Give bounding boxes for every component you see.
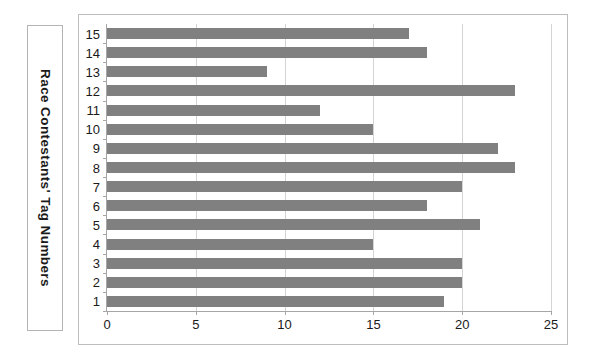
y-axis-tick	[103, 62, 107, 63]
y-axis-tick	[103, 311, 107, 312]
y-axis-label: 8	[93, 160, 100, 175]
y-axis-label: 3	[93, 256, 100, 271]
x-axis-label: 0	[103, 317, 110, 332]
y-axis-tick	[103, 273, 107, 274]
y-axis-tick	[103, 139, 107, 140]
y-axis-tick	[103, 254, 107, 255]
y-axis-tick	[103, 292, 107, 293]
chart-plot-frame: 0510152025123456789101112131415	[78, 14, 568, 345]
y-axis-title-box: Race Contestants' Tag Numbers	[27, 25, 63, 331]
y-axis-label: 5	[93, 217, 100, 232]
x-axis-label: 15	[366, 317, 380, 332]
y-axis-tick	[103, 120, 107, 121]
y-axis-label: 10	[86, 122, 100, 137]
bar	[107, 124, 373, 135]
y-axis-label: 4	[93, 237, 100, 252]
y-axis-title: Race Contestants' Tag Numbers	[38, 69, 53, 287]
bar	[107, 143, 498, 154]
bar	[107, 105, 320, 116]
bar	[107, 85, 515, 96]
y-axis-tick	[103, 101, 107, 102]
bar	[107, 28, 409, 39]
bar	[107, 219, 480, 230]
y-axis-label: 6	[93, 198, 100, 213]
y-axis-label: 7	[93, 179, 100, 194]
y-axis-tick	[103, 81, 107, 82]
bar	[107, 181, 462, 192]
y-axis-label: 9	[93, 141, 100, 156]
bar	[107, 258, 462, 269]
x-axis-tick	[462, 311, 463, 315]
x-axis-label: 25	[544, 317, 558, 332]
bar	[107, 47, 427, 58]
y-axis-label: 1	[93, 294, 100, 309]
bar	[107, 277, 462, 288]
y-axis-tick	[103, 196, 107, 197]
x-gridline	[551, 24, 552, 311]
y-axis-label: 15	[86, 26, 100, 41]
bar	[107, 66, 267, 77]
bar	[107, 162, 515, 173]
x-axis-tick	[107, 311, 108, 315]
y-axis-label: 2	[93, 275, 100, 290]
x-axis-tick	[285, 311, 286, 315]
y-axis-tick	[103, 215, 107, 216]
y-axis-tick	[103, 158, 107, 159]
chart-figure: Race Contestants' Tag Numbers 0510152025…	[0, 0, 598, 356]
y-axis-label: 11	[87, 103, 101, 118]
x-axis-tick	[196, 311, 197, 315]
x-axis-tick	[373, 311, 374, 315]
y-axis-label: 14	[86, 45, 100, 60]
y-axis-label: 12	[86, 83, 100, 98]
y-axis-tick	[103, 43, 107, 44]
x-axis-label: 5	[192, 317, 199, 332]
bar	[107, 239, 373, 250]
x-axis-tick	[551, 311, 552, 315]
bar	[107, 296, 444, 307]
y-axis-label: 13	[86, 64, 100, 79]
y-axis-tick	[103, 177, 107, 178]
plot-area: 0510152025123456789101112131415	[106, 24, 551, 312]
x-axis-label: 20	[455, 317, 469, 332]
y-axis-tick	[103, 234, 107, 235]
x-axis-label: 10	[277, 317, 291, 332]
bar	[107, 200, 427, 211]
